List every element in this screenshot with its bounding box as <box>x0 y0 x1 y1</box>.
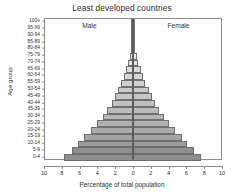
population-pyramid-chart: Least developed countries 0-45-910-1415-… <box>0 0 244 192</box>
bar-female-10-14 <box>133 141 187 148</box>
bar-female-60-64 <box>133 73 143 80</box>
y-tick-label-30-34: 30-34 <box>27 114 40 119</box>
bar-male-20-24 <box>91 127 133 134</box>
x-tick-mark <box>151 166 152 169</box>
y-tick-label-35-39: 35-39 <box>27 107 40 112</box>
bar-female-35-39 <box>133 107 159 114</box>
y-tick-label-95-99: 95-99 <box>27 26 40 31</box>
y-tick-label-85-89: 85-89 <box>27 39 40 44</box>
bar-male-35-39 <box>107 107 133 114</box>
x-tick-mark <box>133 166 134 169</box>
bar-male-25-29 <box>97 120 133 127</box>
center-axis-line <box>133 19 134 159</box>
bar-female-65-69 <box>133 66 141 73</box>
y-tick-label-10-14: 10-14 <box>27 141 40 146</box>
plot-inner: Male Female <box>45 19 221 159</box>
bar-female-70-74 <box>133 60 138 67</box>
bar-male-55-59 <box>121 80 133 87</box>
bar-male-50-54 <box>118 87 133 94</box>
bar-female-20-24 <box>133 127 175 134</box>
bar-male-45-49 <box>115 93 133 100</box>
y-tick-label-40-44: 40-44 <box>27 100 40 105</box>
y-tick-label-25-29: 25-29 <box>27 120 40 125</box>
y-tick-label-15-19: 15-19 <box>27 134 40 139</box>
x-tick-mark <box>204 166 205 169</box>
x-tick-mark <box>97 166 98 169</box>
bar-female-5-9 <box>133 147 194 154</box>
y-tick-label-100+: 100+ <box>29 19 40 24</box>
x-tick-mark <box>169 166 170 169</box>
y-tick-label-65-69: 65-69 <box>27 66 40 71</box>
x-tick-mark <box>44 166 45 169</box>
bar-female-25-29 <box>133 120 169 127</box>
bar-male-5-9 <box>72 147 133 154</box>
x-tick-mark <box>115 166 116 169</box>
bar-female-40-44 <box>133 100 155 107</box>
x-tick-label-10: 10 <box>212 170 232 176</box>
bar-female-50-54 <box>133 87 149 94</box>
y-tick-label-45-49: 45-49 <box>27 93 40 98</box>
bar-male-15-19 <box>84 134 133 141</box>
x-tick-mark <box>222 166 223 169</box>
bar-female-0-4 <box>133 154 201 161</box>
y-tick-label-90-94: 90-94 <box>27 32 40 37</box>
bar-male-10-14 <box>78 141 133 148</box>
plot-area: Male Female <box>44 18 222 160</box>
bar-male-40-44 <box>112 100 133 107</box>
bar-male-30-34 <box>103 114 133 121</box>
y-tick-label-80-84: 80-84 <box>27 46 40 51</box>
x-tick-mark <box>186 166 187 169</box>
x-tick-mark <box>62 166 63 169</box>
y-tick-label-5-9: 5-9 <box>33 147 40 152</box>
y-tick-label-50-54: 50-54 <box>27 87 40 92</box>
bar-female-30-34 <box>133 114 164 121</box>
bar-female-75-79 <box>133 53 137 60</box>
bar-male-0-4 <box>64 154 133 161</box>
x-tick-mark <box>80 166 81 169</box>
y-tick-label-70-74: 70-74 <box>27 59 40 64</box>
bar-female-55-59 <box>133 80 145 87</box>
y-tick-label-20-24: 20-24 <box>27 127 40 132</box>
bar-female-15-19 <box>133 134 182 141</box>
y-axis-title: Age group <box>6 52 13 112</box>
bar-female-45-49 <box>133 93 152 100</box>
y-tick-label-60-64: 60-64 <box>27 73 40 78</box>
y-tick-label-0-4: 0-4 <box>33 154 40 159</box>
y-tick-label-55-59: 55-59 <box>27 80 40 85</box>
x-axis-title: Percentage of total population <box>0 181 244 188</box>
y-tick-label-75-79: 75-79 <box>27 53 40 58</box>
chart-title: Least developed countries <box>0 3 244 13</box>
